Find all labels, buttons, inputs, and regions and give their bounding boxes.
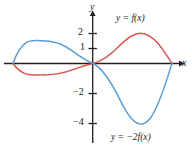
curve-label-f: y = f(x) [116, 14, 145, 24]
y-tick-label-minus-2: −2 [73, 87, 84, 97]
function-plot-canvas [0, 0, 192, 148]
y-tick-label-minus-4: −4 [73, 117, 84, 127]
y-tick-label-2: 2 [78, 27, 83, 37]
y-tick-label-1: 1 [80, 42, 85, 52]
x-axis-label: x [182, 58, 186, 68]
curve-label-minus-2f: y = −2f(x) [111, 133, 151, 143]
y-axis-label: y [90, 2, 94, 12]
graph-figure: y x 2 1 −2 −4 y = f(x) y = −2f(x) [0, 0, 192, 148]
